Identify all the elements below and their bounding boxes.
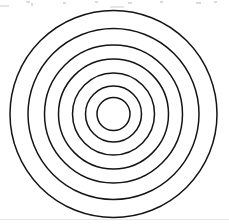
figure-background	[0, 0, 229, 224]
figure-canvas	[0, 0, 229, 224]
concentric-circles-figure	[0, 0, 229, 224]
